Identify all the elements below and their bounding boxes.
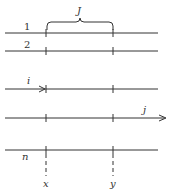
brace-label: J — [75, 5, 82, 16]
brace-j — [47, 18, 113, 30]
line-i-label: i — [27, 75, 30, 86]
diagram-canvas: J 1 2 i j n x y — [0, 0, 174, 191]
line-n-label: n — [22, 151, 28, 162]
line-1-label: 1 — [24, 21, 30, 32]
line-j-label: j — [141, 104, 146, 115]
marker-x-label: x — [43, 178, 49, 189]
marker-y-label: y — [109, 178, 116, 189]
line-2-label: 2 — [24, 39, 30, 50]
